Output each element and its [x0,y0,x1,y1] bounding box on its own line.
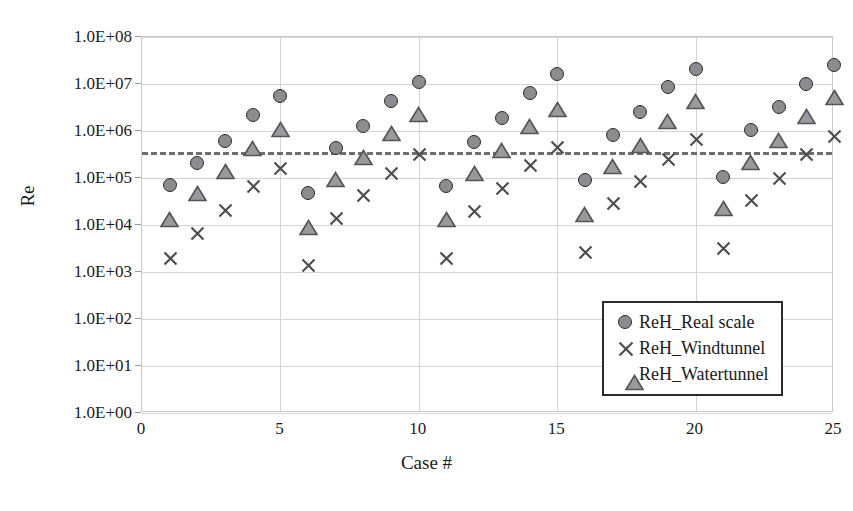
data-point-real-scale [218,134,232,148]
legend-item-windtunnel: ReH_Windtunnel [614,335,769,361]
data-point-real-scale [495,111,509,125]
x-tick-label: 0 [137,420,146,437]
gridline-x [419,37,420,411]
x-tick-label: 5 [275,420,284,437]
data-point-windtunnel [633,174,648,189]
gridline-y [142,178,832,179]
data-point-real-scale [190,156,204,170]
x-tick-label: 25 [825,420,842,437]
y-tick-label: 1.0E+01 [14,357,132,374]
data-point-windtunnel [577,244,592,259]
legend-item-real-scale: ReH_Real scale [614,309,769,335]
chart-legend: ReH_Real scale ReH_Windtunnel [602,301,783,396]
x-tick-label: 15 [548,420,565,437]
data-point-real-scale [384,94,398,108]
x-tick-label: 20 [686,420,703,437]
data-point-windtunnel [522,157,537,172]
y-tick-label: 1.0E+05 [14,169,132,186]
data-point-windtunnel [467,203,482,218]
data-point-real-scale [633,105,647,119]
y-tick-mark [135,412,141,413]
data-point-real-scale [439,179,453,193]
data-point-real-scale [744,123,758,137]
data-point-real-scale [716,170,730,184]
y-tick-label: 1.0E+04 [14,216,132,233]
x-axis-title: Case # [0,452,853,474]
legend-item-watertunnel: ReH_Watertunnel [614,361,769,387]
data-point-windtunnel [162,250,177,265]
x-tick-label: 10 [409,420,426,437]
critical-re-threshold-line [142,152,832,155]
data-point-real-scale [301,186,315,200]
data-point-windtunnel [605,196,620,211]
data-point-real-scale [523,86,537,100]
y-tick-label: 1.0E+00 [14,404,132,421]
data-point-windtunnel [494,181,509,196]
data-point-windtunnel [743,193,758,208]
data-point-windtunnel [301,258,316,273]
cross-marker-icon [614,337,636,359]
gridline-x [557,37,558,411]
legend-label-watertunnel: ReH_Watertunnel [639,365,769,383]
y-tick-label: 1.0E+07 [14,75,132,92]
gridline-x [280,37,281,411]
data-point-real-scale [467,135,481,149]
reynolds-number-scatter-chart: Re 1.0E+001.0E+011.0E+021.0E+031.0E+041.… [0,0,853,511]
data-point-real-scale [661,80,675,94]
data-point-windtunnel [245,178,260,193]
y-tick-label: 1.0E+06 [14,122,132,139]
data-point-windtunnel [190,225,205,240]
y-tick-label: 1.0E+08 [14,28,132,45]
y-tick-label: 1.0E+02 [14,310,132,327]
data-point-windtunnel [439,251,454,266]
circle-marker-icon [614,311,636,333]
data-point-real-scale [578,173,592,187]
data-point-windtunnel [218,202,233,217]
gridline-y [142,84,832,85]
data-point-windtunnel [356,188,371,203]
data-point-real-scale [163,178,177,192]
gridline-y [142,37,832,38]
triangle-marker-icon [614,363,636,385]
data-point-real-scale [606,128,620,142]
data-point-real-scale [772,100,786,114]
legend-label-windtunnel: ReH_Windtunnel [639,339,765,357]
data-point-real-scale [246,108,260,122]
data-point-windtunnel [328,211,343,226]
data-point-real-scale [827,58,841,72]
gridline-y [142,272,832,273]
legend-label-real-scale: ReH_Real scale [639,313,754,331]
y-tick-label: 1.0E+03 [14,263,132,280]
gridline-y [142,225,832,226]
data-point-windtunnel [716,241,731,256]
gridline-y [142,413,832,414]
gridline-y [142,131,832,132]
